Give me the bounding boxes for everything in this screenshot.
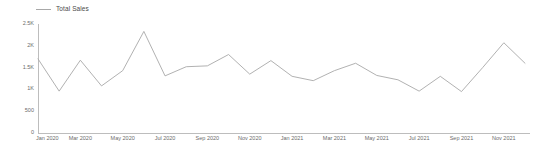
chart-legend: Total Sales	[36, 3, 89, 15]
x-axis-tick-9: Jul 2021	[409, 136, 430, 142]
total-sales-line-chart: Total Sales 2.5K2K1.5K1K5000 Jan 2020Mar…	[0, 0, 534, 156]
legend-line-swatch-total-sales	[36, 9, 51, 10]
x-axis-tick-11: Nov 2021	[492, 136, 516, 142]
x-axis-tick-7: Mar 2021	[323, 136, 346, 142]
y-axis-tick-1: 2K	[27, 43, 38, 49]
y-axis-tick-4: 500	[25, 108, 38, 114]
x-axis-line	[38, 133, 530, 134]
x-axis-tick-labels: Jan 2020Mar 2020May 2020Jul 2020Sep 2020…	[38, 136, 525, 150]
x-axis-tick-5: Nov 2020	[238, 136, 262, 142]
plot-area	[38, 24, 525, 133]
x-axis-tick-0: Jan 2020	[36, 136, 59, 142]
x-axis-tick-8: May 2021	[365, 136, 389, 142]
legend-label-total-sales: Total Sales	[56, 6, 89, 13]
series-total-sales-path	[38, 31, 525, 91]
x-axis-tick-1: Mar 2020	[69, 136, 92, 142]
x-axis-tick-6: Jan 2021	[281, 136, 304, 142]
x-axis-tick-10: Sep 2021	[450, 136, 474, 142]
x-axis-tick-3: Jul 2020	[155, 136, 176, 142]
x-axis-tick-2: May 2020	[111, 136, 135, 142]
y-axis-tick-3: 1K	[27, 87, 38, 93]
y-axis-tick-0: 2.5K	[23, 21, 38, 27]
x-axis-tick-4: Sep 2020	[196, 136, 220, 142]
y-axis-tick-2: 1.5K	[23, 65, 38, 71]
series-total-sales	[38, 24, 525, 133]
